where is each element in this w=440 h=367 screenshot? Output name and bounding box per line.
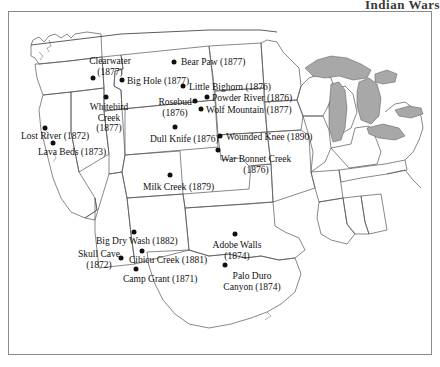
battle-label: Milk Creek (1879): [143, 182, 214, 193]
battle-marker: [172, 60, 177, 65]
battle-label: Big Dry Wash (1882): [96, 236, 178, 247]
battle-label: Camp Grant (1871): [123, 274, 197, 285]
battle-label: Adobe Walls (1874): [213, 240, 262, 261]
battle-marker: [216, 148, 221, 153]
map-frame: Clearwater (1877)Bear Paw (1877)Big Hole…: [8, 11, 432, 355]
battle-marker: [132, 230, 137, 235]
battle-marker: [134, 267, 139, 272]
battle-marker: [173, 125, 178, 130]
battle-label: Little Bighorn (1876): [189, 82, 271, 93]
map-screenshot: Indian Wars: [0, 0, 440, 367]
battle-label: Dull Knife (1876): [150, 134, 219, 145]
battle-marker: [233, 232, 238, 237]
battle-label: Clearwater (1877): [89, 56, 131, 77]
battle-label: Palo Duro Canyon (1874): [223, 271, 280, 292]
battle-label: Wolf Mountain (1877): [206, 105, 292, 116]
battle-label: Lava Beds (1873): [38, 147, 106, 158]
battle-label: Big Hole (1877): [127, 76, 189, 87]
battle-marker: [193, 99, 198, 104]
battle-label: Lost River (1872): [21, 131, 89, 142]
great-lakes: [305, 56, 423, 142]
battle-marker: [168, 173, 173, 178]
battle-label: Bear Paw (1877): [181, 57, 245, 68]
battle-marker: [223, 263, 228, 268]
battle-label: War Bonnet Creek (1876): [221, 154, 291, 175]
battle-label: Rosebud (1876): [158, 97, 191, 118]
battle-label: Whitebird Creek (1877): [90, 102, 129, 134]
battle-marker: [43, 126, 48, 131]
battle-label: Cibicu Creek (1881): [129, 255, 207, 266]
battle-marker: [140, 249, 145, 254]
page-title: Indian Wars: [300, 0, 440, 9]
battle-label: Powder River (1876): [212, 93, 292, 104]
battle-label: Wounded Knee (1890): [226, 132, 312, 143]
battle-marker: [120, 78, 125, 83]
battle-marker: [104, 95, 109, 100]
battle-marker: [205, 95, 210, 100]
battle-marker: [199, 107, 204, 112]
battle-label: Skull Cave (1872): [78, 249, 120, 270]
